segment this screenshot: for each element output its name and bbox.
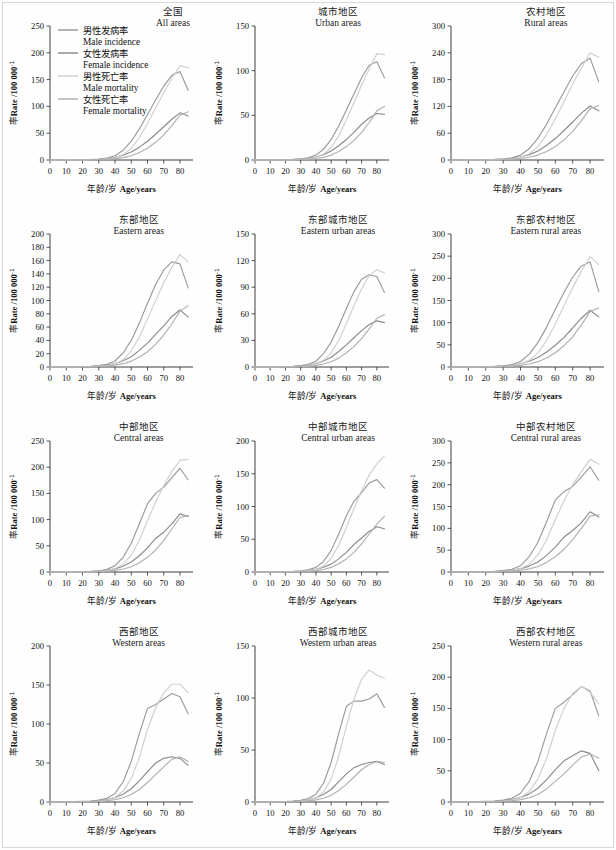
y-tick-label: 100 <box>31 296 44 306</box>
series-line <box>50 515 188 572</box>
x-axis-title: 年龄/岁 Age/years <box>87 390 157 401</box>
x-axis-title: 年龄/岁 Age/years <box>493 183 563 194</box>
x-tick-label: 20 <box>281 578 290 588</box>
x-tick-label: 70 <box>568 166 577 176</box>
x-tick-label: 10 <box>266 166 275 176</box>
y-tick-label: 160 <box>31 256 44 266</box>
y-tick-label: 100 <box>432 318 445 328</box>
chart-svg: 05010015001020304050607080率Rate /100 000… <box>205 0 401 208</box>
chart-panel-12: 05010015020025001020304050607080率Rate /1… <box>401 620 616 850</box>
x-tick-label: 20 <box>281 166 290 176</box>
panel-grid: 05010015020025001020304050607080率Rate /1… <box>0 0 616 850</box>
x-tick-label: 80 <box>586 373 595 383</box>
y-tick-label: 200 <box>432 672 445 682</box>
series-line <box>451 257 599 367</box>
series-line <box>451 58 599 160</box>
x-tick-label: 20 <box>281 373 290 383</box>
chart-svg: 06012018024030001020304050607080率Rate /1… <box>401 0 616 208</box>
x-tick-label: 60 <box>342 166 351 176</box>
x-tick-label: 40 <box>516 373 525 383</box>
x-tick-label: 20 <box>481 578 490 588</box>
x-tick-label: 40 <box>111 578 120 588</box>
y-tick-label: 140 <box>31 269 44 279</box>
y-axis-title: 率Rate /100 000-1 <box>213 691 224 756</box>
series-line <box>50 262 188 367</box>
x-tick-label: 40 <box>516 166 525 176</box>
x-tick-label: 50 <box>127 808 136 818</box>
x-tick-label: 80 <box>586 578 595 588</box>
x-tick-label: 0 <box>449 373 453 383</box>
y-tick-label: 80 <box>35 309 44 319</box>
x-tick-label: 80 <box>586 166 595 176</box>
y-tick-label: 0 <box>441 155 445 165</box>
x-tick-label: 10 <box>62 373 71 383</box>
y-axis-title: 率Rate /100 000-1 <box>409 691 420 756</box>
x-axis-title: 年龄/岁 Age/years <box>288 825 358 836</box>
x-tick-label: 60 <box>143 166 152 176</box>
y-axis-title: 率Rate /100 000-1 <box>213 474 224 539</box>
series-line <box>50 694 188 802</box>
chart-svg: 0204060801001201401601802000102030405060… <box>0 208 205 415</box>
x-tick-label: 60 <box>143 373 152 383</box>
x-tick-label: 60 <box>551 578 560 588</box>
y-tick-label: 150 <box>236 641 249 651</box>
x-tick-label: 10 <box>62 808 71 818</box>
x-axis-title: 年龄/岁 Age/years <box>493 825 563 836</box>
y-tick-label: 200 <box>432 273 445 283</box>
y-tick-label: 0 <box>245 797 249 807</box>
y-tick-label: 50 <box>436 340 445 350</box>
chart-panel-7: 05010015020025001020304050607080率Rate /1… <box>0 415 205 620</box>
legend-label-en-male_mortality: Male mortality <box>83 83 139 93</box>
x-tick-label: 60 <box>551 373 560 383</box>
y-tick-label: 60 <box>240 309 249 319</box>
x-tick-label: 20 <box>481 808 490 818</box>
chart-panel-11: 05010015001020304050607080率Rate /100 000… <box>205 620 401 850</box>
x-tick-label: 20 <box>78 578 87 588</box>
x-tick-label: 20 <box>281 808 290 818</box>
x-tick-label: 20 <box>481 166 490 176</box>
chart-panel-5: 030609012015001020304050607080率Rate /100… <box>205 208 401 415</box>
x-tick-label: 50 <box>534 578 543 588</box>
series-line <box>451 512 599 572</box>
x-axis-title: 年龄/岁 Age/years <box>288 390 358 401</box>
x-tick-label: 70 <box>568 373 577 383</box>
x-tick-label: 80 <box>586 808 595 818</box>
y-tick-label: 50 <box>35 541 44 551</box>
y-axis-title: 率Rate /100 000-1 <box>409 474 420 539</box>
series-line <box>50 255 188 367</box>
x-tick-label: 20 <box>78 373 87 383</box>
y-tick-label: 150 <box>432 502 445 512</box>
series-line <box>255 114 384 160</box>
chart-panel-8: 05010015020001020304050607080率Rate /100 … <box>205 415 401 620</box>
chart-svg: 05010015001020304050607080率Rate /100 000… <box>205 620 401 850</box>
series-line <box>50 684 188 802</box>
x-tick-label: 50 <box>127 166 136 176</box>
x-tick-label: 60 <box>342 373 351 383</box>
x-tick-label: 40 <box>312 578 321 588</box>
legend-label-en-female_incidence: Female incidence <box>83 60 148 70</box>
chart-svg: 05010015020025001020304050607080率Rate /1… <box>0 415 205 620</box>
legend-label-cn-female_incidence: 女性发病率 <box>83 48 128 59</box>
y-axis-title: 率Rate /100 000-1 <box>213 60 224 125</box>
y-tick-label: 50 <box>436 545 445 555</box>
x-tick-label: 70 <box>159 808 168 818</box>
x-tick-label: 60 <box>143 808 152 818</box>
chart-panel-1: 05010015020025001020304050607080率Rate /1… <box>0 0 205 208</box>
x-tick-label: 40 <box>111 373 120 383</box>
y-tick-label: 100 <box>432 523 445 533</box>
y-tick-label: 90 <box>240 282 249 292</box>
x-tick-label: 10 <box>62 166 71 176</box>
x-tick-label: 60 <box>143 578 152 588</box>
chart-svg: 05010015020025001020304050607080率Rate /1… <box>0 0 205 208</box>
series-line <box>255 694 384 802</box>
series-line <box>451 53 599 160</box>
y-tick-label: 30 <box>240 335 249 345</box>
x-tick-label: 0 <box>253 808 257 818</box>
x-tick-label: 50 <box>327 166 336 176</box>
x-tick-label: 30 <box>296 578 305 588</box>
x-tick-label: 40 <box>111 808 120 818</box>
x-tick-label: 10 <box>464 578 473 588</box>
x-tick-label: 10 <box>464 166 473 176</box>
y-tick-label: 0 <box>441 362 445 372</box>
y-tick-label: 150 <box>31 488 44 498</box>
